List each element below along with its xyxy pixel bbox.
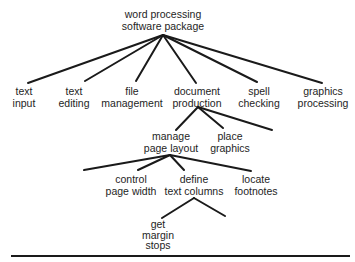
node-line: locate bbox=[234, 174, 277, 186]
node-control-page-width: control page width bbox=[106, 174, 157, 197]
node-line: stops bbox=[142, 240, 174, 251]
node-line: page width bbox=[106, 186, 157, 198]
edge-manage-unlabeled bbox=[84, 155, 170, 170]
node-line: footnotes bbox=[234, 186, 277, 198]
edge-docprod-manage bbox=[176, 107, 198, 130]
node-line: place bbox=[210, 131, 250, 143]
bottom-rule-divider bbox=[11, 255, 350, 257]
edge-docprod-unlabeled bbox=[198, 107, 272, 130]
node-line: graphics bbox=[210, 143, 250, 155]
node-text-input: text input bbox=[13, 86, 36, 109]
edge-define-unlabeled bbox=[194, 198, 225, 216]
node-get-margin-stops: get margin stops bbox=[142, 219, 174, 251]
node-document-production: document production bbox=[172, 86, 221, 109]
node-line: text bbox=[59, 86, 90, 98]
node-line: text columns bbox=[165, 186, 224, 198]
node-line: document bbox=[172, 86, 221, 98]
node-line: checking bbox=[238, 98, 279, 110]
node-line: get bbox=[142, 219, 174, 230]
node-graphics-processing: graphics processing bbox=[298, 86, 349, 109]
node-line: processing bbox=[298, 98, 349, 110]
node-line: production bbox=[172, 98, 221, 110]
node-line: editing bbox=[59, 98, 90, 110]
node-line: page layout bbox=[144, 143, 198, 155]
node-file-management: file management bbox=[101, 86, 162, 109]
node-line: graphics bbox=[298, 86, 349, 98]
node-manage-page-layout: manage page layout bbox=[144, 131, 198, 154]
node-line: text bbox=[13, 86, 36, 98]
node-word-processing-software-package: word processing software package bbox=[122, 9, 204, 32]
node-line: spell bbox=[238, 86, 279, 98]
node-line: input bbox=[13, 98, 36, 110]
node-line: word processing bbox=[122, 9, 204, 21]
edge-define-get-margin bbox=[162, 198, 194, 218]
node-line: software package bbox=[122, 21, 204, 33]
node-place-graphics: place graphics bbox=[210, 131, 250, 154]
node-text-editing: text editing bbox=[59, 86, 90, 109]
node-line: file bbox=[101, 86, 162, 98]
node-spell-checking: spell checking bbox=[238, 86, 279, 109]
node-line: define bbox=[165, 174, 224, 186]
node-line: control bbox=[106, 174, 157, 186]
node-line: manage bbox=[144, 131, 198, 143]
node-line: management bbox=[101, 98, 162, 110]
node-locate-footnotes: locate footnotes bbox=[234, 174, 277, 197]
node-define-text-columns: define text columns bbox=[165, 174, 224, 197]
